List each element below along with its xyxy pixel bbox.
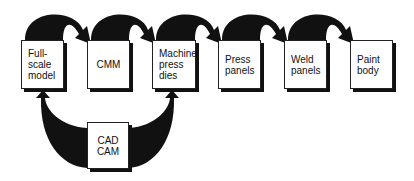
node-label-line: dies <box>159 70 197 81</box>
node-label: Paintbody <box>357 54 380 76</box>
node-label: Weldpanels <box>291 54 320 76</box>
node-press-panels: Presspanels <box>218 40 261 89</box>
node-label-line: body <box>357 65 380 76</box>
node-label: Full-scalemodel <box>28 48 55 81</box>
node-label-line: panels <box>291 65 320 76</box>
node-cmm: CMM <box>87 40 130 89</box>
node-label-line: model <box>28 70 55 81</box>
node-label-line: Full- <box>28 48 55 59</box>
node-label-line: Paint <box>357 54 380 65</box>
node-label-line: CAM <box>88 146 128 157</box>
process-flow-diagram: Full-scalemodelCMMMachinepressdiesPressp… <box>0 0 414 181</box>
node-label-line: CAD <box>88 135 128 146</box>
node-label: Presspanels <box>225 54 254 76</box>
flow-arrows <box>0 0 414 181</box>
node-full-scale-model: Full-scalemodel <box>21 40 64 89</box>
node-label-line: panels <box>225 65 254 76</box>
node-label-line: CMM <box>88 59 129 70</box>
node-cad-cam: CADCAM <box>87 122 129 169</box>
node-weld-panels: Weldpanels <box>284 40 327 89</box>
node-label-line: press <box>159 59 197 70</box>
node-label-line: scale <box>28 59 55 70</box>
node-label-line: Machine <box>159 48 197 59</box>
node-machine-press-dies: Machinepressdies <box>152 40 196 89</box>
node-label: CADCAM <box>88 135 128 157</box>
node-label: CMM <box>88 59 129 70</box>
node-label-line: Press <box>225 54 254 65</box>
node-label: Machinepressdies <box>159 48 197 81</box>
node-label-line: Weld <box>291 54 320 65</box>
node-paint-body: Paintbody <box>350 40 393 89</box>
